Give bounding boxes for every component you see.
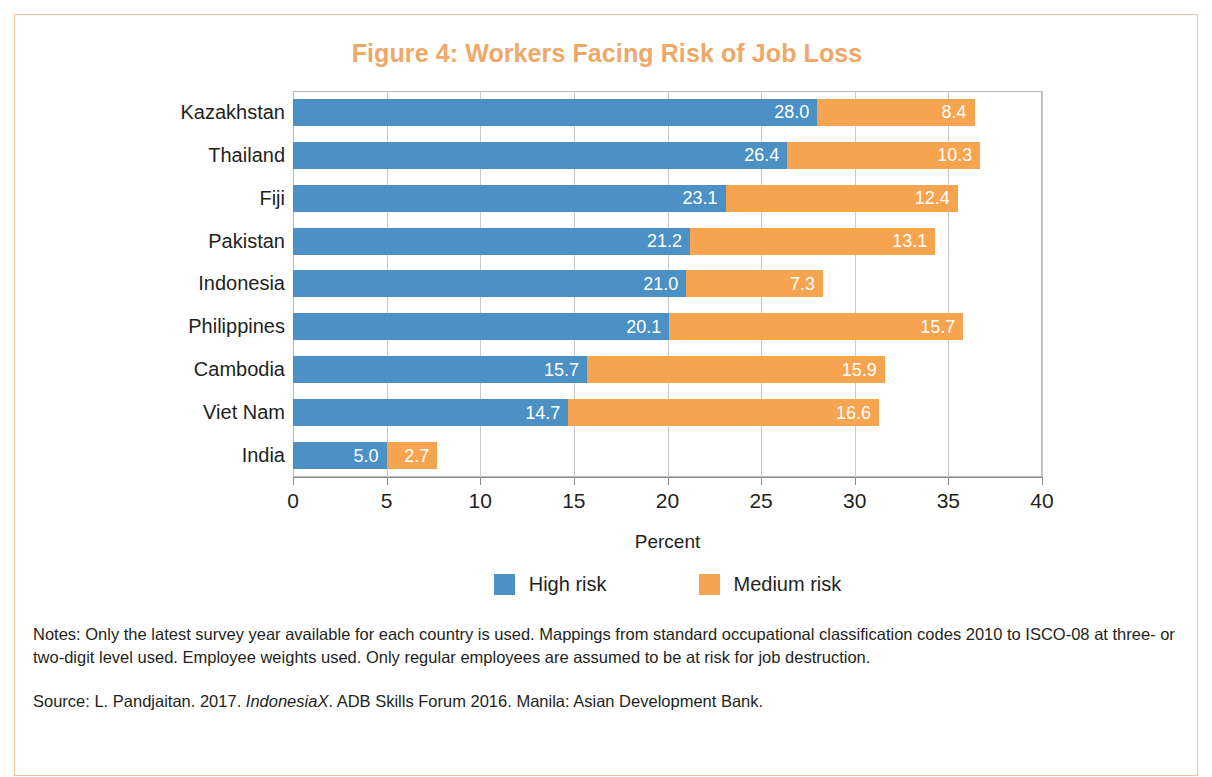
bar-segment-medium-risk[interactable]: 10.3 [787, 142, 980, 169]
bar-value-label: 12.4 [915, 189, 958, 207]
category-label-india: India [35, 434, 285, 477]
bar-row[interactable]: 26.410.3 [293, 134, 980, 177]
bar-row[interactable]: 20.115.7 [293, 305, 963, 348]
legend-label: Medium risk [734, 573, 842, 596]
category-label-cambodia: Cambodia [35, 348, 285, 391]
gridline [1042, 91, 1043, 477]
bar-segment-high-risk[interactable]: 26.4 [293, 142, 787, 169]
bar-value-label: 7.3 [790, 275, 823, 293]
category-label-viet-nam: Viet Nam [35, 391, 285, 434]
notes-paragraph: Notes: Only the latest survey year avail… [33, 623, 1179, 670]
bar-value-label: 20.1 [626, 318, 669, 336]
bar-value-label: 8.4 [942, 103, 975, 121]
bar-row[interactable]: 28.08.4 [293, 91, 975, 134]
bar-row[interactable]: 21.213.1 [293, 220, 935, 263]
bar-row[interactable]: 21.07.3 [293, 263, 823, 306]
x-axis-tick-label: 5 [381, 489, 393, 513]
bar-value-label: 15.9 [842, 361, 885, 379]
legend-item-medium-risk[interactable]: Medium risk [699, 573, 842, 596]
bar-row[interactable]: 15.715.9 [293, 348, 885, 391]
bar-value-label: 23.1 [683, 189, 726, 207]
bar-segment-high-risk[interactable]: 28.0 [293, 99, 817, 126]
x-axis-tick-label: 15 [562, 489, 585, 513]
x-axis-tick [387, 477, 388, 485]
category-label-philippines: Philippines [35, 305, 285, 348]
legend-item-high-risk[interactable]: High risk [494, 573, 607, 596]
category-label-fiji: Fiji [35, 177, 285, 220]
figure-frame: Figure 4: Workers Facing Risk of Job Los… [14, 14, 1198, 776]
bar-segment-medium-risk[interactable]: 15.9 [587, 356, 885, 383]
category-label-indonesia: Indonesia [35, 263, 285, 306]
source-prefix: Source: L. Pandjaitan. 2017. [33, 692, 246, 710]
x-axis-title: Percent [293, 531, 1042, 553]
bar-segment-medium-risk[interactable]: 2.7 [387, 442, 438, 469]
category-label-thailand: Thailand [35, 134, 285, 177]
bar-value-label: 5.0 [354, 447, 387, 465]
bar-value-label: 2.7 [404, 447, 437, 465]
source-italic-title: IndonesiaX [246, 692, 329, 710]
legend-swatch-icon [494, 574, 515, 595]
bar-value-label: 28.0 [774, 103, 817, 121]
bar-segment-medium-risk[interactable]: 7.3 [686, 270, 823, 297]
bar-segment-medium-risk[interactable]: 13.1 [690, 228, 935, 255]
x-axis-tick-label: 35 [937, 489, 960, 513]
x-axis-tick [855, 477, 856, 485]
category-label-pakistan: Pakistan [35, 220, 285, 263]
bar-segment-medium-risk[interactable]: 8.4 [817, 99, 974, 126]
bar-value-label: 26.4 [744, 146, 787, 164]
x-axis-tick-label: 10 [469, 489, 492, 513]
x-axis-tick [948, 477, 949, 485]
bar-value-label: 16.6 [836, 404, 879, 422]
bar-segment-high-risk[interactable]: 20.1 [293, 313, 669, 340]
bar-value-label: 14.7 [525, 404, 568, 422]
legend-swatch-icon [699, 574, 720, 595]
x-axis-tick-label: 30 [843, 489, 866, 513]
bar-row[interactable]: 14.716.6 [293, 391, 879, 434]
bar-segment-medium-risk[interactable]: 15.7 [669, 313, 963, 340]
bar-value-label: 21.2 [647, 232, 690, 250]
x-axis-tick [761, 477, 762, 485]
bar-segment-medium-risk[interactable]: 16.6 [568, 399, 879, 426]
x-axis-tick-label: 25 [749, 489, 772, 513]
bar-value-label: 21.0 [643, 275, 686, 293]
bar-segment-medium-risk[interactable]: 12.4 [726, 185, 958, 212]
source-paragraph: Source: L. Pandjaitan. 2017. IndonesiaX.… [33, 690, 1179, 713]
x-axis-tick [293, 477, 294, 485]
x-axis-tick [668, 477, 669, 485]
bar-segment-high-risk[interactable]: 5.0 [293, 442, 387, 469]
chart-legend: High riskMedium risk [293, 573, 1042, 596]
bar-value-label: 15.7 [920, 318, 963, 336]
x-axis-tick [1042, 477, 1043, 485]
footnotes: Notes: Only the latest survey year avail… [33, 623, 1179, 713]
bar-segment-high-risk[interactable]: 21.2 [293, 228, 690, 255]
x-axis-tick [574, 477, 575, 485]
bar-segment-high-risk[interactable]: 15.7 [293, 356, 587, 383]
x-axis-tick [480, 477, 481, 485]
x-axis-tick-label: 40 [1030, 489, 1053, 513]
bar-segment-high-risk[interactable]: 14.7 [293, 399, 568, 426]
bar-row[interactable]: 5.02.7 [293, 434, 437, 477]
legend-label: High risk [529, 573, 607, 596]
x-axis-tick-label: 20 [656, 489, 679, 513]
bar-value-label: 10.3 [937, 146, 980, 164]
x-axis-tick-label: 0 [287, 489, 299, 513]
bar-value-label: 13.1 [892, 232, 935, 250]
bar-value-label: 15.7 [544, 361, 587, 379]
category-label-kazakhstan: Kazakhstan [35, 91, 285, 134]
bar-segment-high-risk[interactable]: 23.1 [293, 185, 726, 212]
bar-row[interactable]: 23.112.4 [293, 177, 958, 220]
source-suffix: . ADB Skills Forum 2016. Manila: Asian D… [328, 692, 763, 710]
bar-segment-high-risk[interactable]: 21.0 [293, 270, 686, 297]
